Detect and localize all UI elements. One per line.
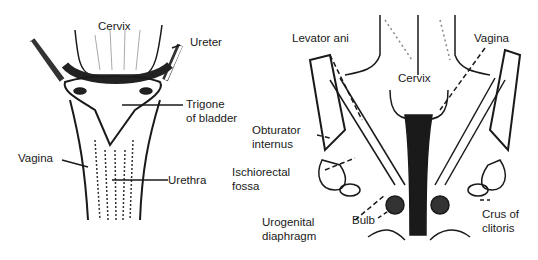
label-levator-ani: Levator ani	[292, 32, 349, 45]
label-trigone-line2: of bladder	[186, 112, 237, 125]
label-obturator-line1: Obturator	[252, 124, 301, 137]
right-figure	[310, 15, 520, 240]
label-ureter: Ureter	[190, 36, 222, 49]
label-vagina-right: Vagina	[474, 32, 509, 45]
label-obturator-line2: internus	[252, 138, 293, 151]
label-ischiorectal-line1: Ischiorectal	[232, 166, 290, 179]
label-urogenital-line2: diaphragm	[262, 230, 316, 243]
label-urethra: Urethra	[168, 174, 206, 187]
left-figure	[30, 25, 183, 220]
label-cervix-right: Cervix	[398, 72, 431, 85]
label-urogenital-line1: Urogenital	[262, 216, 314, 229]
label-ischiorectal-line2: fossa	[232, 180, 260, 193]
label-trigone-line1: Trigone	[186, 98, 225, 111]
label-bulb: Bulb	[352, 214, 375, 227]
label-crus-line1: Crus of	[482, 208, 519, 221]
label-vagina-left: Vagina	[18, 152, 53, 165]
label-crus-line2: clitoris	[482, 222, 515, 235]
label-cervix-left: Cervix	[98, 20, 131, 33]
